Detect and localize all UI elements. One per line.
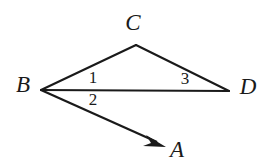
vertex-label-A: A (168, 137, 185, 162)
vertex-label-B: B (16, 72, 30, 97)
geometry-diagram-canvas: B C D A 1 2 3 (0, 0, 273, 167)
vertex-label-D: D (239, 74, 257, 99)
geometry-figure: B C D A 1 2 3 (0, 0, 273, 167)
angle-label-3: 3 (181, 69, 190, 88)
vertex-label-C: C (125, 10, 141, 35)
angle-label-1: 1 (89, 68, 98, 87)
segment-BD (41, 90, 229, 91)
ray-BA (41, 90, 157, 142)
angle-label-2: 2 (89, 90, 98, 109)
